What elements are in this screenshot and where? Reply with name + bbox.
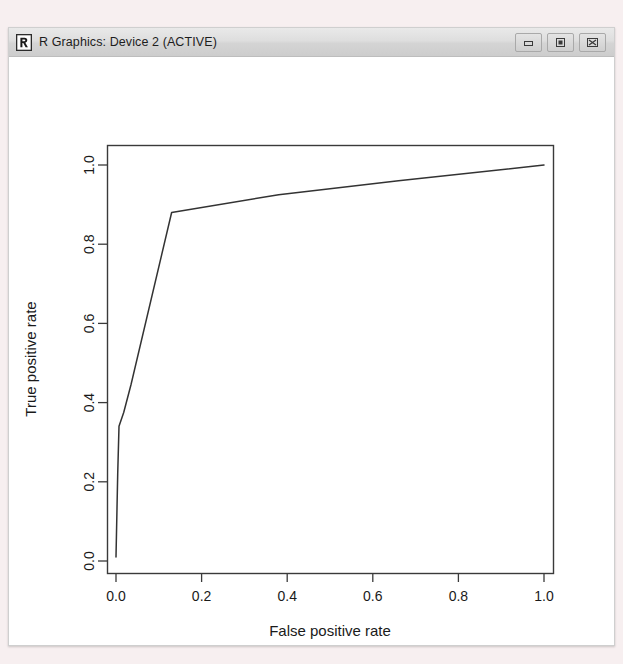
minimize-button[interactable] [515, 33, 542, 52]
roc-curve-line [116, 165, 544, 557]
plot-frame-box [108, 146, 554, 574]
close-button[interactable] [579, 33, 606, 52]
x-axis-ticks: 0.00.20.40.60.81.0 [106, 573, 554, 604]
y-tick-label: 1.0 [81, 155, 97, 175]
minimize-icon [522, 37, 535, 48]
window-titlebar[interactable]: R Graphics: Device 2 (ACTIVE) [9, 28, 614, 57]
window-title-text: R Graphics: Device 2 (ACTIVE) [39, 35, 515, 49]
y-tick-label: 0.4 [81, 393, 97, 413]
y-tick-label: 0.6 [81, 313, 97, 333]
y-axis-title: True positive rate [22, 301, 39, 416]
x-axis-title: False positive rate [269, 622, 391, 639]
window-controls [515, 33, 606, 52]
y-tick-label: 0.0 [81, 551, 97, 571]
maximize-icon [554, 37, 567, 48]
r-graphics-window: R Graphics: Device 2 (ACTIVE) [8, 27, 615, 646]
y-axis-ticks: 0.00.20.40.60.81.0 [81, 155, 107, 571]
y-tick-label: 0.8 [81, 234, 97, 254]
y-tick-label: 0.2 [81, 472, 97, 492]
x-tick-label: 1.0 [534, 588, 554, 604]
close-icon [586, 37, 599, 48]
plot-canvas: 0.00.20.40.60.81.0 0.00.20.40.60.81.0 Fa… [10, 58, 614, 644]
x-tick-label: 0.4 [277, 588, 297, 604]
r-logo-icon [16, 34, 32, 51]
x-tick-label: 0.0 [106, 588, 126, 604]
x-tick-label: 0.2 [192, 588, 212, 604]
maximize-button[interactable] [547, 33, 574, 52]
x-tick-label: 0.6 [363, 588, 383, 604]
x-tick-label: 0.8 [449, 588, 469, 604]
screen: R Graphics: Device 2 (ACTIVE) [0, 0, 623, 664]
roc-plot: 0.00.20.40.60.81.0 0.00.20.40.60.81.0 Fa… [10, 58, 614, 644]
